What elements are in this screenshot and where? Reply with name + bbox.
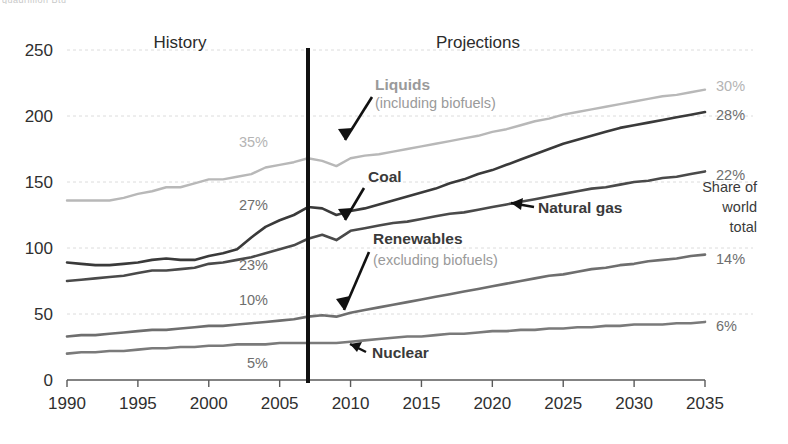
y-tick-label: 100 [25,239,53,258]
left-share-label-nuclear: 5% [247,355,268,371]
left-share-label-renewables: 10% [239,292,268,308]
history-label: History [154,33,207,52]
right-share-label-nuclear: 6% [716,318,737,334]
arrow-head-liquids [338,128,353,140]
left-share-label-coal: 27% [239,197,268,213]
series-label-renewables: Renewables [373,230,463,247]
series-label-coal: Coal [368,168,402,185]
arrow-head-nuclear [350,342,362,352]
share-caption-line1: Share of [702,179,758,195]
share-caption-line3: total [730,219,757,235]
arrow-head-natural-gas [511,198,523,210]
x-tick-label: 2035 [686,394,724,413]
x-tick-label: 1995 [119,394,157,413]
x-axis-ticks [67,380,705,387]
arrow-line-renewables [344,252,369,310]
x-tick-label: 2005 [261,394,299,413]
right-share-label-coal: 28% [716,107,745,123]
y-tick-label: 50 [34,305,53,324]
series-label-natural-gas: Natural gas [538,199,622,216]
right-share-label-renewables: 14% [716,251,745,267]
chart-canvas: 050100150200250 199019952000200520102015… [0,0,788,444]
energy-consumption-chart: quadrillion Btu 050100150200250 19901995… [0,0,788,444]
x-tick-label: 2000 [190,394,228,413]
left-share-label-liquids: 35% [239,134,268,150]
y-tick-label: 250 [25,41,53,60]
y-tick-label: 150 [25,173,53,192]
arrow-line-coal [345,188,364,220]
left-share-label-natural-gas: 23% [239,257,268,273]
x-tick-label: 2030 [615,394,653,413]
x-tick-label: 1990 [48,394,86,413]
series-label-nuclear: Nuclear [372,344,429,361]
y-tick-label: 200 [25,107,53,126]
right-share-label-liquids: 30% [716,78,745,94]
series-label-liquids: Liquids [375,76,430,93]
y-axis-tick-labels: 050100150200250 [25,41,53,390]
series-sublabel-renewables: (excluding biofuels) [373,252,498,268]
share-caption-line2: world [721,199,757,215]
series-sublabel-liquids: (including biofuels) [375,95,496,111]
y-tick-label: 0 [44,371,53,390]
projections-label: Projections [436,33,520,52]
x-tick-label: 2025 [544,394,582,413]
x-tick-label: 2010 [332,394,370,413]
x-axis-tick-labels: 1990199520002005201020152020202520302035 [48,394,724,413]
x-tick-label: 2015 [403,394,441,413]
x-tick-label: 2020 [473,394,511,413]
